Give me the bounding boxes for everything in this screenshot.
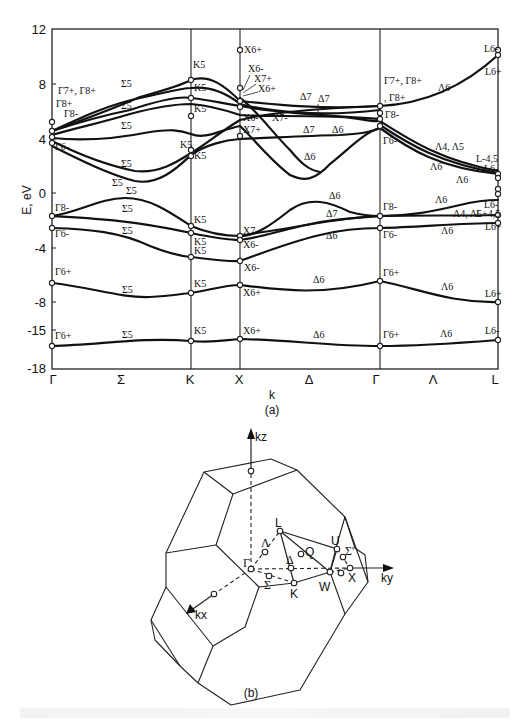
svg-text:Γ6-: Γ6- bbox=[383, 229, 397, 240]
svg-text:Δ6: Δ6 bbox=[313, 274, 324, 285]
bands bbox=[52, 55, 498, 346]
band-curve bbox=[240, 216, 380, 236]
svg-text:Σ5: Σ5 bbox=[121, 78, 132, 89]
svg-text:X7+: X7+ bbox=[243, 124, 261, 135]
svg-text:Λ6: Λ6 bbox=[430, 161, 442, 172]
delta-label: Δ bbox=[286, 553, 294, 567]
svg-text:Γ6+: Γ6+ bbox=[383, 267, 400, 278]
svg-text:X7-: X7- bbox=[243, 225, 259, 236]
svg-text:Σ5: Σ5 bbox=[122, 284, 133, 295]
svg-text:K5: K5 bbox=[194, 278, 206, 289]
y-tick: 4 bbox=[39, 132, 46, 147]
y-tick: -4 bbox=[34, 241, 46, 256]
svg-text:L6+: L6+ bbox=[485, 288, 502, 299]
svg-text:K5: K5 bbox=[193, 59, 205, 70]
svg-text:Λ6: Λ6 bbox=[441, 225, 453, 236]
svg-text:Γ6-: Γ6- bbox=[383, 135, 397, 146]
svg-text:Λ6: Λ6 bbox=[435, 194, 447, 205]
k-label: K bbox=[290, 587, 298, 601]
svg-text:Λ6: Λ6 bbox=[440, 328, 452, 339]
x-label: X bbox=[348, 571, 356, 585]
svg-text:L6+: L6+ bbox=[485, 66, 502, 77]
svg-text:X6+: X6+ bbox=[244, 44, 262, 55]
y-tick: -18 bbox=[27, 361, 46, 376]
svg-text:Σ5: Σ5 bbox=[112, 177, 123, 188]
sigma-label: Σ bbox=[264, 578, 271, 592]
svg-text:X6-: X6- bbox=[243, 112, 259, 123]
y-tick: -15 bbox=[27, 323, 46, 338]
svg-text:X6-: X6- bbox=[244, 262, 260, 273]
figure-caption-blurred bbox=[20, 708, 510, 718]
svg-text:Δ7: Δ7 bbox=[326, 208, 337, 219]
x-axis-title: k bbox=[269, 388, 276, 402]
band-curve bbox=[52, 339, 498, 346]
svg-text:Γ6+: Γ6+ bbox=[55, 330, 72, 341]
svg-text:L6-: L6- bbox=[484, 43, 498, 54]
svg-text:Γ8-: Γ8- bbox=[383, 201, 397, 212]
svg-text:K5: K5 bbox=[194, 103, 206, 114]
y-tick: 12 bbox=[32, 22, 46, 37]
svg-text:Σ5: Σ5 bbox=[122, 329, 133, 340]
svg-text:L6-: L6- bbox=[484, 163, 498, 174]
band-curve bbox=[52, 281, 498, 302]
panel-b-label: (b) bbox=[244, 686, 259, 700]
svg-text:Σ5: Σ5 bbox=[122, 225, 133, 236]
svg-text:Δ6: Δ6 bbox=[326, 230, 337, 241]
sigma-prime-label: Σ' bbox=[345, 544, 354, 558]
svg-text:Γ6-: Γ6- bbox=[55, 228, 69, 239]
svg-text:Δ6: Δ6 bbox=[329, 190, 340, 201]
svg-text:X6+: X6+ bbox=[243, 287, 261, 298]
svg-text:Δ7: Δ7 bbox=[300, 91, 311, 102]
x-tick: Δ bbox=[305, 372, 314, 387]
x-axis: Γ Σ K X Δ Γ Λ L k (a) bbox=[49, 372, 498, 417]
svg-text:X6+: X6+ bbox=[258, 83, 276, 94]
kx-label: kx bbox=[195, 608, 207, 622]
band-curve bbox=[52, 223, 498, 261]
band-structure-chart: 12 8 4 0 -4 -8 -15 -18 E, eV Γ Σ K X Δ Γ… bbox=[20, 22, 502, 417]
svg-text:Γ8-: Γ8- bbox=[385, 109, 399, 120]
svg-text:Δ6: Δ6 bbox=[313, 329, 324, 340]
svg-text:Λ6: Λ6 bbox=[441, 281, 453, 292]
ky-label: ky bbox=[381, 571, 393, 585]
lambda-label: Λ bbox=[261, 536, 270, 550]
svg-text:X6+: X6+ bbox=[243, 325, 261, 336]
x-tick: K bbox=[186, 372, 195, 387]
svg-text:K5: K5 bbox=[194, 150, 206, 161]
svg-text:L6-: L6- bbox=[485, 325, 499, 336]
svg-text:K5: K5 bbox=[180, 139, 192, 150]
svg-text:Γ6+: Γ6+ bbox=[383, 329, 400, 340]
svg-text:Σ5: Σ5 bbox=[122, 203, 133, 214]
x-tick: L bbox=[491, 372, 498, 387]
svg-text:Σ5: Σ5 bbox=[121, 158, 132, 169]
y-tick: 0 bbox=[39, 186, 46, 201]
svg-text:Δ6: Δ6 bbox=[332, 124, 343, 135]
x-tick: X bbox=[235, 372, 244, 387]
x-tick: Γ bbox=[372, 372, 379, 387]
svg-text:K5: K5 bbox=[194, 245, 206, 256]
svg-text:L6+: L6+ bbox=[485, 221, 502, 232]
kz-arrow-icon bbox=[247, 428, 255, 439]
brillouin-zone-diagram: kz ky kx Γ Λ L Q U Σ' Δ X Σ K W (b) bbox=[151, 428, 394, 705]
w-label: W bbox=[319, 580, 331, 594]
svg-text:Λ4, Λ5: Λ4, Λ5 bbox=[435, 141, 464, 152]
q-label: Q bbox=[305, 545, 314, 559]
svg-text:X6-: X6- bbox=[243, 239, 259, 250]
svg-text:L+4,5: L+4,5 bbox=[476, 208, 500, 219]
svg-text:K5: K5 bbox=[194, 82, 206, 93]
svg-text:Γ8-: Γ8- bbox=[64, 108, 78, 119]
x-tick: Σ bbox=[117, 372, 125, 387]
svg-text:Δ7: Δ7 bbox=[303, 124, 314, 135]
svg-text:, Γ8+: , Γ8+ bbox=[384, 92, 406, 103]
x-tick: Λ bbox=[429, 372, 438, 387]
y-tick: 8 bbox=[39, 77, 46, 92]
svg-text:Γ8-: Γ8- bbox=[55, 202, 69, 213]
svg-text:K5: K5 bbox=[194, 325, 206, 336]
svg-text:Γ7+, Γ8+: Γ7+, Γ8+ bbox=[58, 85, 96, 96]
svg-text:Σ5: Σ5 bbox=[121, 120, 132, 131]
svg-text:Λ6: Λ6 bbox=[438, 82, 450, 93]
svg-text:Γ7+, Γ8+: Γ7+, Γ8+ bbox=[384, 75, 422, 86]
svg-text:K5: K5 bbox=[194, 214, 206, 225]
figure: 12 8 4 0 -4 -8 -15 -18 E, eV Γ Σ K X Δ Γ… bbox=[0, 0, 527, 725]
svg-text:Δ7: Δ7 bbox=[318, 93, 329, 104]
u-label: U bbox=[331, 534, 340, 548]
